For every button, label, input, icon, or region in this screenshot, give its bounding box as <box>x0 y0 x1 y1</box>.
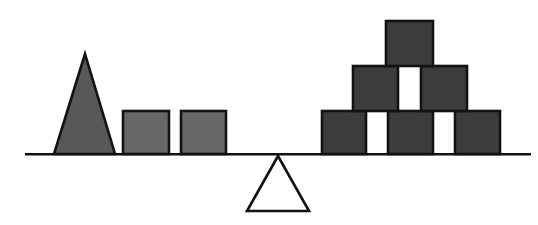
right-block-bottom-2 <box>388 111 433 154</box>
diagram-svg <box>0 0 538 225</box>
fulcrum-triangle <box>247 156 309 211</box>
right-block-bottom-3 <box>455 111 500 154</box>
balance-diagram <box>0 0 538 225</box>
right-block-top <box>386 21 433 66</box>
right-block-bottom-1 <box>322 111 366 154</box>
right-block-middle-2 <box>421 66 467 111</box>
right-block-middle-1 <box>353 66 398 111</box>
left-weight-block-1 <box>123 111 169 154</box>
left-weight-triangle <box>54 54 115 154</box>
left-weight-block-2 <box>181 111 226 154</box>
